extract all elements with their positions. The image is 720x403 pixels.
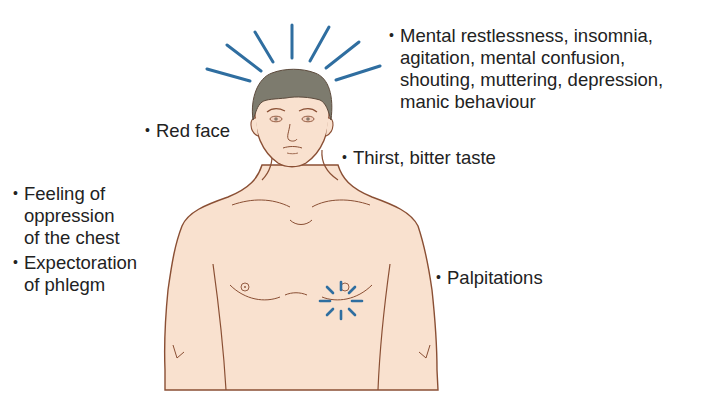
label-mental-symptoms: •Mental restlessness, insomnia, agitatio…: [389, 24, 663, 113]
palpitations-text: Palpitations: [447, 267, 543, 288]
bullet: •: [436, 266, 447, 288]
mental-line-2: agitation, mental confusion,: [389, 47, 663, 69]
red-face-text: Red face: [156, 120, 230, 141]
phlegm-line-2: of phlegm: [13, 274, 137, 296]
label-phlegm: •Expectoration of phlegm: [13, 251, 137, 296]
chest-line-2: oppression: [13, 205, 120, 227]
chest-line-1: Feeling of: [24, 183, 105, 204]
mental-line-1: Mental restlessness, insomnia,: [400, 25, 653, 46]
bullet: •: [13, 182, 24, 204]
bullet: •: [145, 119, 156, 141]
bullet: •: [13, 251, 24, 273]
thirst-text: Thirst, bitter taste: [353, 147, 496, 168]
label-red-face: •Red face: [145, 119, 230, 142]
phlegm-line-1: Expectoration: [24, 252, 137, 273]
torso-outline: [165, 165, 438, 390]
mental-line-3: shouting, muttering, depression,: [389, 69, 663, 91]
chest-line-3: of the chest: [13, 227, 120, 249]
label-thirst: •Thirst, bitter taste: [342, 146, 496, 169]
label-palpitations: •Palpitations: [436, 266, 543, 289]
bullet: •: [389, 24, 400, 46]
mental-line-4: manic behaviour: [389, 91, 663, 113]
bullet: •: [342, 146, 353, 168]
label-chest-oppression: •Feeling of oppression of the chest: [13, 182, 120, 249]
